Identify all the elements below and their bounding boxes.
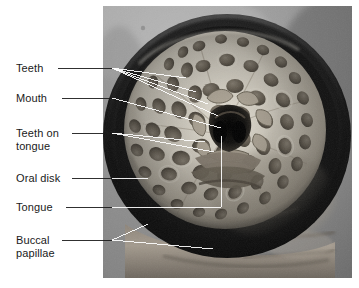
label-mouth-line-1: Mouth — [16, 92, 47, 105]
label-tongue-line-1: Tongue — [16, 201, 53, 214]
label-tongue: Tongue — [16, 201, 53, 214]
label-mouth: Mouth — [16, 92, 47, 105]
label-teeth-on-tongue-line-1: Teeth on — [16, 127, 59, 140]
label-teeth-line-1: Teeth — [16, 62, 43, 75]
label-oral-disk-line-1: Oral disk — [16, 172, 60, 185]
figure-root: TeethMouthTeeth ontongueOral diskTongueB… — [0, 0, 359, 288]
label-teeth: Teeth — [16, 62, 43, 75]
specimen-photo-svg — [103, 6, 352, 278]
specimen-photograph — [103, 6, 352, 278]
label-buccal-papillae: Buccalpapillae — [16, 234, 55, 260]
film-grain — [103, 6, 352, 278]
label-oral-disk: Oral disk — [16, 172, 60, 185]
label-buccal-papillae-line-1: Buccal — [16, 234, 55, 247]
label-buccal-papillae-line-2: papillae — [16, 247, 55, 260]
label-teeth-on-tongue-line-2: tongue — [16, 140, 59, 153]
label-teeth-on-tongue: Teeth ontongue — [16, 127, 59, 153]
